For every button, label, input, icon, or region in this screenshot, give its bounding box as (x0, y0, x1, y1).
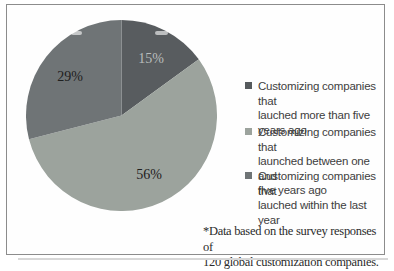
scan-shadow (18, 258, 388, 260)
scan-artifact (71, 31, 82, 35)
legend-marker-light-icon (245, 128, 252, 135)
pie-slice-label: 15% (138, 51, 164, 66)
legend-label: Customizing companies that lauched withi… (258, 169, 385, 227)
pie-slice-label: 29% (57, 69, 83, 84)
legend-marker-medium-icon (245, 172, 252, 179)
scan-artifact (155, 31, 168, 35)
pie-slice-label: 56% (136, 167, 162, 182)
pie-chart: 15%56%29% (26, 20, 217, 211)
chart-footnote: *Data based on the survey responses of 1… (203, 224, 383, 271)
legend-marker-dark-icon (245, 82, 252, 89)
legend-item-within-last-year: Customizing companies that lauched withi… (245, 169, 385, 227)
chart-frame: 15%56%29% Customizing companies that lau… (6, 4, 385, 255)
